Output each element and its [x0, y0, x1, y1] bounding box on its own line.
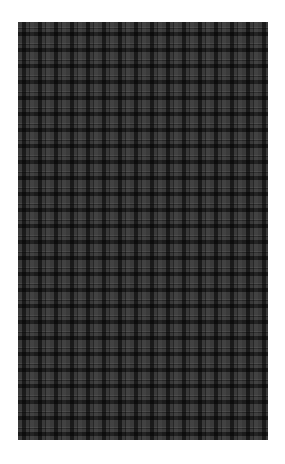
plaid-fabric-swatch: [18, 22, 268, 440]
